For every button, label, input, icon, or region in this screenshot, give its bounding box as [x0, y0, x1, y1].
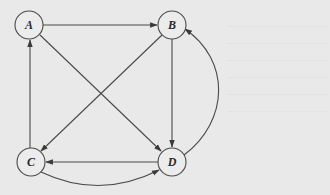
edge-b-to-c — [41, 35, 162, 151]
edge-d-to-b — [184, 29, 219, 155]
edge-c-to-d — [41, 170, 159, 186]
node-b-label: B — [167, 18, 176, 32]
graph-svg: A B C D — [0, 0, 330, 195]
node-a-label: A — [24, 18, 33, 32]
node-d-label: D — [167, 155, 177, 169]
graph-canvas: A B C D — [0, 0, 330, 195]
node-c-label: C — [27, 155, 36, 169]
edge-a-to-d — [40, 35, 161, 151]
